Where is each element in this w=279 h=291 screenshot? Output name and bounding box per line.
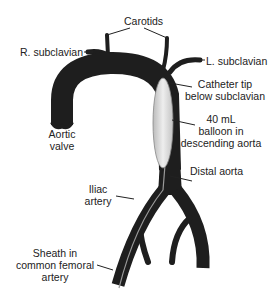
label-sheath: Sheath in common femoral artery xyxy=(14,247,96,283)
label-catheter-tip-line2: below subclavian xyxy=(185,90,265,102)
label-iliac-line2: artery xyxy=(78,195,118,207)
label-carotids: Carotids xyxy=(124,15,163,27)
label-balloon: 40 mL balloon in descending aorta xyxy=(175,113,267,149)
label-sheath-line2: common femoral xyxy=(14,259,96,271)
label-aortic-valve: Aortic valve xyxy=(40,128,84,152)
label-sheath-line3: artery xyxy=(14,271,96,283)
diagram-canvas: Carotids R. subclavian L. subclavian Cat… xyxy=(0,0,279,291)
label-iliac-line1: Iliac xyxy=(78,183,118,195)
label-r-subclavian: R. subclavian xyxy=(20,46,83,58)
label-catheter-tip: Catheter tip below subclavian xyxy=(185,78,265,102)
label-aortic-valve-line2: valve xyxy=(40,140,84,152)
l-subclavian-vessel xyxy=(170,60,200,72)
label-balloon-line2: balloon in xyxy=(175,125,267,137)
label-balloon-line3: descending aorta xyxy=(175,137,267,149)
l-carotid-vessel xyxy=(163,38,167,70)
label-l-subclavian: L. subclavian xyxy=(206,55,267,67)
label-sheath-line1: Sheath in xyxy=(14,247,96,259)
label-balloon-line1: 40 mL xyxy=(175,113,267,125)
aortic-root xyxy=(52,122,72,127)
internal-iliac-right xyxy=(172,218,190,262)
label-aortic-valve-line1: Aortic xyxy=(40,128,84,140)
label-iliac-artery: Iliac artery xyxy=(78,183,118,207)
label-distal-aorta: Distal aorta xyxy=(190,165,243,177)
iabp-balloon xyxy=(153,78,173,168)
label-catheter-tip-line1: Catheter tip xyxy=(185,78,265,90)
